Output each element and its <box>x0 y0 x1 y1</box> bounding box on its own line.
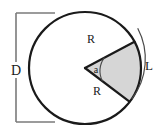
angle-label: a <box>94 64 99 75</box>
diameter-dimension-group: D <box>11 13 55 122</box>
circle-sector-diagram: D R R a L <box>0 0 158 135</box>
radius-label-upper: R <box>87 32 95 46</box>
diameter-label: D <box>11 63 21 78</box>
radius-label-lower: R <box>93 84 101 98</box>
arc-length-label: L <box>145 58 153 73</box>
diagram-canvas: D R R a L <box>0 0 158 135</box>
